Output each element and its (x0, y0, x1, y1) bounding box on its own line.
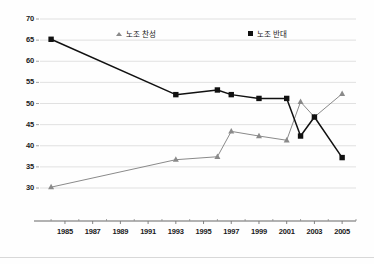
y-axis-ticks (36, 19, 39, 188)
bottom-divider (0, 257, 374, 258)
legend-label-support: 노조 찬성 (126, 28, 156, 39)
y-tick-label: 50 (6, 99, 34, 108)
chart-canvas (0, 0, 374, 264)
y-tick-label: 45 (6, 120, 34, 129)
x-tick-label: 2005 (326, 227, 358, 236)
triangle-marker-icon (116, 32, 122, 36)
legend-label-oppose: 노조 반대 (257, 28, 287, 39)
legend-item-oppose[interactable]: 노조 반대 (248, 28, 287, 39)
y-tick-label: 60 (6, 56, 34, 65)
y-tick-label: 35 (6, 162, 34, 171)
y-tick-label: 30 (6, 183, 34, 192)
y-tick-label: 65 (6, 35, 34, 44)
y-tick-label: 40 (6, 141, 34, 150)
square-marker-icon (248, 31, 253, 36)
y-tick-label: 70 (6, 14, 34, 23)
line-chart: 303540455055606570 198519871989199119931… (0, 0, 374, 264)
legend-item-support[interactable]: 노조 찬성 (116, 28, 156, 39)
y-tick-label: 55 (6, 77, 34, 86)
series-markers (48, 37, 345, 190)
gridlines (40, 19, 356, 188)
